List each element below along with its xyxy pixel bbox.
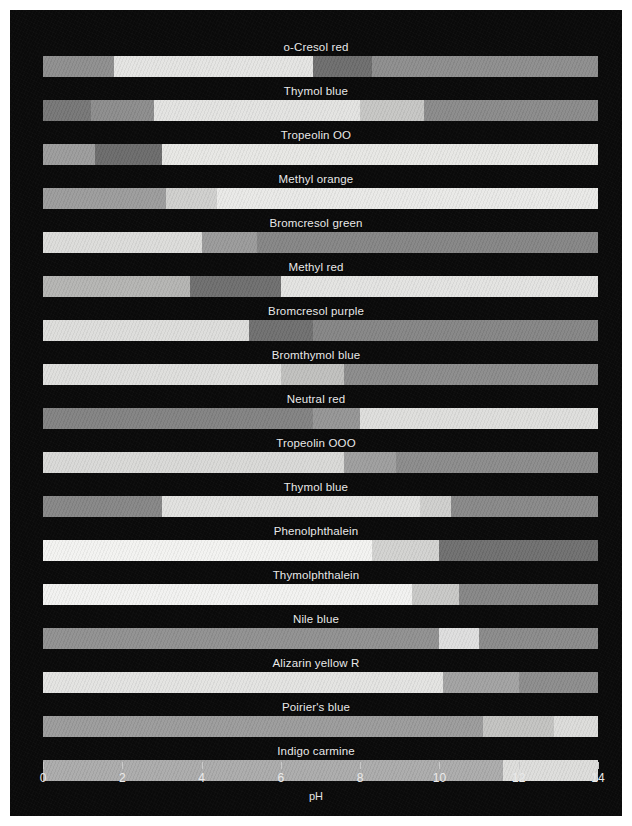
axis-tick [43,762,44,769]
indicator-color-bar [43,540,598,561]
indicator-row: Alizarin yellow R [10,656,622,700]
indicator-color-bar [43,144,598,165]
color-segment [43,320,249,341]
indicator-color-bar [43,232,598,253]
indicator-name-label: Bromthymol blue [10,348,622,363]
color-segment [202,232,258,253]
color-segment [313,56,372,77]
indicator-name-label: Alizarin yellow R [10,656,622,671]
indicator-color-bar [43,408,598,429]
indicator-name-label: Neutral red [10,392,622,407]
indicator-color-bar [43,100,598,121]
color-segment [424,100,598,121]
color-segment [257,232,598,253]
axis-tick-label: 2 [102,771,142,785]
axis-title: pH [10,790,622,803]
color-segment [554,716,598,737]
indicator-row: Nile blue [10,612,622,656]
color-segment [360,408,598,429]
indicator-row: Phenolphthalein [10,524,622,568]
color-segment [43,144,95,165]
indicator-name-label: Poirier's blue [10,700,622,715]
axis-tick [598,762,599,769]
color-segment [162,496,420,517]
color-segment [372,56,598,77]
color-segment [249,320,312,341]
indicator-row: Bromcresol purple [10,304,622,348]
indicator-name-label: Bromcresol purple [10,304,622,319]
indicator-color-bar [43,56,598,77]
indicator-row: Bromthymol blue [10,348,622,392]
color-segment [281,364,344,385]
indicator-name-label: Thymolphthalein [10,568,622,583]
color-segment [281,276,598,297]
color-segment [43,188,166,209]
color-segment [443,672,518,693]
axis-tick-label: 0 [23,771,63,785]
indicator-name-label: Methyl orange [10,172,622,187]
color-segment [43,540,372,561]
color-segment [217,188,598,209]
color-segment [43,496,162,517]
axis-tick [122,762,123,769]
indicator-name-label: Tropeolin OO [10,128,622,143]
axis-tick-label: 12 [499,771,539,785]
color-segment [372,540,439,561]
axis-tick-label: 10 [419,771,459,785]
color-segment [43,276,190,297]
indicator-row: o-Cresol red [10,40,622,84]
color-segment [190,276,281,297]
axis-tick [360,762,361,769]
color-segment [313,408,361,429]
indicator-row: Methyl orange [10,172,622,216]
color-segment [43,628,439,649]
indicator-name-label: Phenolphthalein [10,524,622,539]
indicator-name-label: Bromcresol green [10,216,622,231]
color-segment [43,716,483,737]
indicator-row: Thymolphthalein [10,568,622,612]
color-segment [313,320,598,341]
color-segment [43,100,91,121]
indicator-name-label: Thymol blue [10,480,622,495]
indicator-color-bar [43,452,598,473]
indicator-bars-plot: o-Cresol redThymol blueTropeolin OOMethy… [10,10,622,816]
indicator-name-label: o-Cresol red [10,40,622,55]
indicator-row: Thymol blue [10,84,622,128]
axis-tick-label: 6 [261,771,301,785]
color-segment [43,56,114,77]
indicator-name-label: Methyl red [10,260,622,275]
indicator-color-bar [43,276,598,297]
color-segment [412,584,460,605]
ph-axis: pH 02468101214 [10,762,622,816]
indicator-color-bar [43,672,598,693]
color-segment [459,584,598,605]
color-segment [43,584,412,605]
color-segment [483,716,554,737]
indicator-name-label: Tropeolin OOO [10,436,622,451]
color-segment [43,408,313,429]
axis-tick-label: 4 [182,771,222,785]
color-segment [43,452,344,473]
ph-indicator-figure: o-Cresol redThymol blueTropeolin OOMethy… [10,10,622,816]
indicator-color-bar [43,584,598,605]
indicator-name-label: Nile blue [10,612,622,627]
indicator-color-bar [43,188,598,209]
axis-tick [281,762,282,769]
indicator-color-bar [43,320,598,341]
color-segment [166,188,218,209]
axis-tick [202,762,203,769]
color-segment [439,628,479,649]
color-segment [420,496,452,517]
indicator-row: Thymol blue [10,480,622,524]
color-segment [43,364,281,385]
indicator-color-bar [43,496,598,517]
indicator-row: Tropeolin OO [10,128,622,172]
color-segment [43,232,202,253]
indicator-row: Methyl red [10,260,622,304]
indicator-row: Bromcresol green [10,216,622,260]
indicator-name-label: Thymol blue [10,84,622,99]
color-segment [439,540,598,561]
color-segment [396,452,598,473]
color-segment [344,452,396,473]
color-segment [95,144,162,165]
